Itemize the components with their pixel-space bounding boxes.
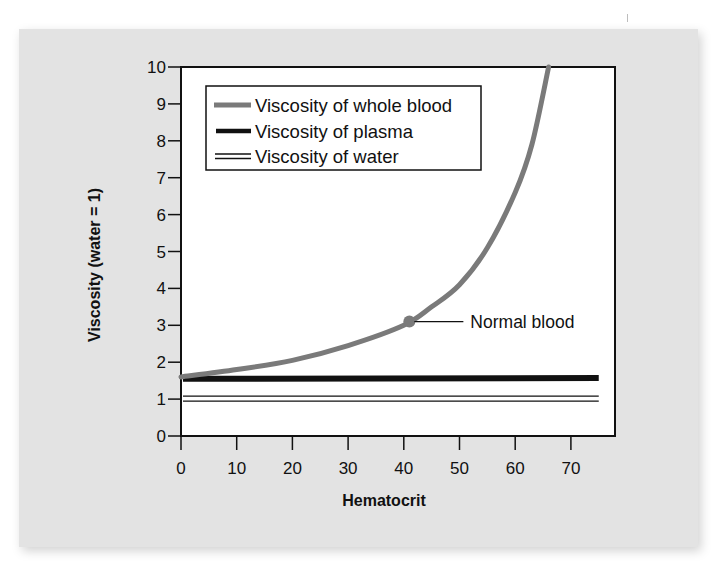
x-tick-label: 30 <box>339 459 358 478</box>
legend-label-whole-blood: Viscosity of whole blood <box>255 95 452 116</box>
y-tick-label: 10 <box>147 58 166 77</box>
x-tick-label: 10 <box>227 459 246 478</box>
y-tick-label: 2 <box>157 353 166 372</box>
x-tick-label: 70 <box>561 459 580 478</box>
series-plasma <box>183 378 599 379</box>
normal-blood-marker <box>403 316 415 328</box>
x-tick-label: 20 <box>283 459 302 478</box>
x-tick-label: 0 <box>176 459 185 478</box>
legend-label-water: Viscosity of water <box>255 146 399 167</box>
legend-label-plasma: Viscosity of plasma <box>255 121 414 142</box>
y-tick-label: 4 <box>157 279 166 298</box>
plasma-line <box>183 378 599 379</box>
y-tick-label: 6 <box>157 206 166 225</box>
viscosity-chart: 012345678910 010203040506070 Normal bloo… <box>0 0 728 580</box>
y-tick-label: 7 <box>157 169 166 188</box>
y-tick-label: 0 <box>157 427 166 446</box>
y-tick-label: 8 <box>157 132 166 151</box>
x-tick-label: 50 <box>450 459 469 478</box>
x-axis-ticks: 010203040506070 <box>176 436 580 478</box>
x-tick-label: 60 <box>506 459 525 478</box>
annotation-label: Normal blood <box>470 312 574 332</box>
legend: Viscosity of whole blood Viscosity of pl… <box>206 86 481 170</box>
x-tick-label: 40 <box>394 459 413 478</box>
y-axis-ticks: 012345678910 <box>147 58 181 446</box>
y-axis-label: Viscosity (water = 1) <box>86 188 103 342</box>
y-tick-label: 5 <box>157 243 166 262</box>
y-tick-label: 9 <box>157 95 166 114</box>
y-tick-label: 3 <box>157 316 166 335</box>
x-axis-label: Hematocrit <box>342 492 426 509</box>
y-tick-label: 1 <box>157 390 166 409</box>
